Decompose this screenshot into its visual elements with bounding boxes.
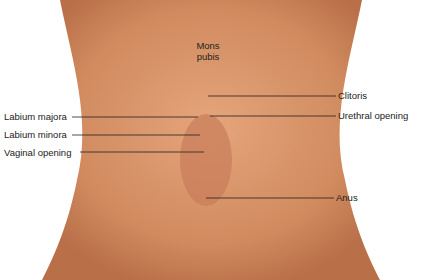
label-labium-majora: Labium majora [4, 111, 67, 122]
label-clitoris: Clitoris [338, 90, 367, 101]
label-urethral-opening: Urethral opening [338, 110, 408, 121]
label-vaginal-opening: Vaginal opening [4, 147, 71, 158]
label-labium-minora: Labium minora [4, 129, 67, 140]
central-region [180, 114, 232, 206]
label-mons-pubis: Mons pubis [188, 40, 228, 62]
label-anus: Anus [336, 192, 358, 203]
